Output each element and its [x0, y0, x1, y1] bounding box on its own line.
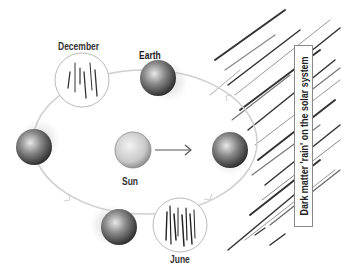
sun-label: Sun — [122, 176, 138, 187]
june-label: June — [170, 254, 190, 265]
earth-december-icon — [140, 60, 188, 102]
diagram-title: Dark matter 'rain' on the solar system — [298, 56, 310, 215]
december-inset-icon — [55, 53, 109, 107]
december-label: December — [58, 41, 99, 52]
earth-june-icon — [90, 205, 137, 245]
june-inset-icon — [153, 198, 207, 252]
dark-matter-rain — [210, 10, 340, 250]
sun-to-earth-arrow — [155, 145, 191, 155]
sun-icon — [115, 132, 151, 168]
earth-label: Earth — [139, 50, 161, 61]
earth-right-icon — [210, 132, 250, 175]
earth-left-icon — [16, 120, 60, 165]
diagram-title-box: Dark matter 'rain' on the solar system — [294, 45, 313, 227]
